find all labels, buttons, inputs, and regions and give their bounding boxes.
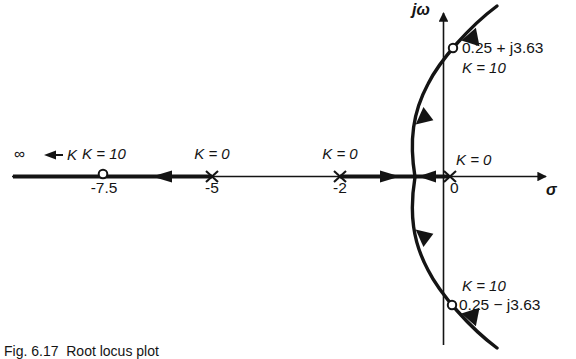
axis-label-sigma: σ: [546, 182, 557, 199]
pole-gain-label-origin: K = 0: [456, 152, 491, 168]
locus-arrow-left: [152, 171, 172, 183]
pole-value-label-neg5: -5: [176, 180, 248, 196]
locus-branch-complex-lower: [412, 177, 497, 348]
infinity-symbol: ∞: [14, 146, 25, 162]
pole-value-label-neg2: -2: [304, 180, 376, 196]
figure-caption: Fig. 6.17 Root locus plot: [4, 344, 159, 359]
pole-gain-label-neg2: K = 0: [304, 146, 376, 162]
crossing-value-upper: 0.25 + j3.63: [462, 40, 543, 56]
origin-label: 0: [450, 180, 459, 196]
crossing-marker-lower: [448, 301, 456, 309]
crossing-gain-upper: K = 10: [462, 60, 506, 76]
crossing-marker-upper: [449, 44, 457, 52]
crossing-gain-lower: K = 10: [462, 278, 506, 294]
crossing-value-lower: 0.25 − j3.63: [459, 297, 540, 313]
axis-label-jomega: jω: [412, 2, 430, 19]
locus-arrow-right: [380, 171, 400, 183]
zero-marker-neg7p5: [99, 170, 108, 179]
zero-gain-label-neg7p5: K = 10: [68, 146, 140, 162]
infinity-arrow-icon: [44, 151, 63, 160]
zero-value-label-neg7p5: -7.5: [68, 180, 140, 196]
locus-arrow-left-origin: [418, 171, 436, 183]
pole-gain-label-neg5: K = 0: [176, 146, 248, 162]
